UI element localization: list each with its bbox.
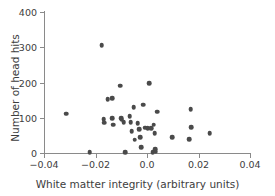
- x-tick-label: −0.02: [81, 159, 110, 170]
- data-point: [118, 83, 123, 88]
- x-tick-label: −0.04: [29, 159, 58, 170]
- data-point: [110, 96, 115, 101]
- data-point: [153, 149, 158, 154]
- data-point: [155, 109, 160, 114]
- y-tick-label: 0: [10, 148, 37, 159]
- data-point: [147, 81, 152, 86]
- data-point: [121, 120, 126, 125]
- data-point: [131, 105, 136, 110]
- data-point: [110, 116, 115, 121]
- x-tick-label: 0.0: [139, 159, 154, 170]
- data-point: [207, 131, 212, 136]
- y-tick-mark: [40, 153, 44, 154]
- data-point: [170, 135, 175, 140]
- y-tick-mark: [40, 47, 44, 48]
- scatter-plot: −0.04−0.020.00.020.04 0100200300400 Whit…: [0, 0, 275, 196]
- data-point: [138, 135, 143, 140]
- data-point: [137, 127, 142, 132]
- data-point: [135, 121, 140, 126]
- data-point: [111, 123, 116, 128]
- data-point: [64, 111, 69, 116]
- x-tick-mark: [250, 154, 251, 158]
- data-point: [130, 129, 135, 134]
- x-tick-label: 0.04: [239, 159, 260, 170]
- data-point: [187, 137, 192, 142]
- y-tick-label: 400: [10, 7, 37, 18]
- data-point: [127, 114, 132, 119]
- x-tick-mark: [44, 154, 45, 158]
- data-point: [128, 120, 133, 125]
- x-tick-label: 0.02: [188, 159, 209, 170]
- y-axis-line: [44, 11, 45, 154]
- data-point: [88, 150, 93, 155]
- data-point: [189, 125, 194, 130]
- data-point: [141, 102, 146, 107]
- data-point: [99, 43, 104, 48]
- data-point: [102, 120, 107, 125]
- x-tick-mark: [96, 154, 97, 158]
- x-tick-mark: [147, 154, 148, 158]
- y-tick-mark: [40, 83, 44, 84]
- y-axis-title: Number of head hits: [9, 32, 21, 144]
- x-axis-title: White matter integrity (arbitrary units): [36, 178, 240, 190]
- data-point: [152, 131, 157, 136]
- x-tick-mark: [199, 154, 200, 158]
- y-tick-mark: [40, 12, 44, 13]
- data-point: [123, 150, 128, 155]
- y-tick-mark: [40, 118, 44, 119]
- data-point: [132, 137, 137, 142]
- data-point: [151, 123, 156, 128]
- data-point: [188, 107, 193, 112]
- data-point: [139, 145, 144, 150]
